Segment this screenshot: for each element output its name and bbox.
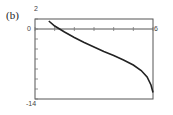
data-curve <box>49 21 153 93</box>
chart-plot <box>0 0 173 115</box>
